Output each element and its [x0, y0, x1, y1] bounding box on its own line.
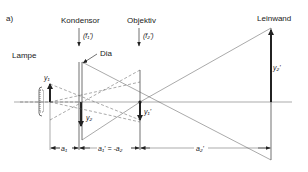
illumination-ray-2	[50, 70, 140, 120]
a2p-label: a₂'	[196, 145, 205, 152]
illumination-ray-4	[50, 102, 140, 122]
ray-slide-bottom-to-objective	[82, 102, 140, 140]
a1-label: a₁	[61, 145, 68, 152]
objective-label: Objektiv	[127, 16, 156, 25]
screen-label: Leinwand	[257, 14, 291, 23]
slide-label: Dia	[100, 49, 113, 58]
lamp-filament-icon	[39, 87, 44, 116]
a1p-eq-a2-label: a₁' = -a₂	[98, 145, 123, 152]
y1-prime-label: y₁'	[143, 108, 152, 116]
figure-label: a)	[6, 14, 13, 23]
objective-focal-label: (f₂')	[143, 32, 154, 40]
lamp-label: Lampe	[12, 51, 37, 60]
condenser-focal-label: (f₁')	[83, 32, 93, 40]
condenser-label: Kondensor	[61, 16, 100, 25]
y2-prime-label: y₂'	[272, 64, 281, 72]
slide-pointer-arrow	[83, 54, 97, 63]
ray-objective-to-screen-top	[140, 28, 271, 102]
projector-optics-diagram: a) Lampe y₁ Kondensor (f₁') Dia y₂ Objek…	[0, 0, 308, 172]
y1-label: y₁	[43, 74, 51, 82]
y2-label: y₂	[85, 114, 93, 122]
